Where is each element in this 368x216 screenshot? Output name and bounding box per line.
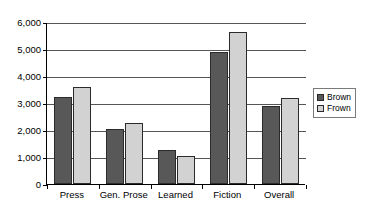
bar-frown-overall xyxy=(281,98,299,184)
bar-brown-press xyxy=(54,97,72,184)
bar-brown-fiction xyxy=(210,52,228,184)
y-axis-tick-label: 2,000 xyxy=(1,126,41,136)
bar-chart: 01,0002,0003,0004,0005,0006,000 PressGen… xyxy=(0,0,368,216)
x-axis-tick-label: Fiction xyxy=(213,190,241,200)
bar-group xyxy=(262,22,299,184)
x-axis-tick xyxy=(151,185,152,189)
legend-item-brown: Brown xyxy=(317,92,351,103)
x-axis-tick-label: Gen. Prose xyxy=(100,190,148,200)
bar-group xyxy=(158,22,195,184)
y-axis-tick-label: 0 xyxy=(1,180,41,190)
plot-area xyxy=(46,23,305,185)
chart-legend: BrownFrown xyxy=(313,88,356,118)
bar-brown-overall xyxy=(262,106,280,184)
bar-frown-learned xyxy=(177,156,195,184)
x-axis-tick xyxy=(202,185,203,189)
y-axis-tick-label: 3,000 xyxy=(1,99,41,109)
x-axis-tick-label: Learned xyxy=(158,190,193,200)
y-axis-tick-label: 5,000 xyxy=(1,45,41,55)
y-axis-tick xyxy=(43,131,47,132)
y-axis-tick-label: 1,000 xyxy=(1,153,41,163)
bar-frown-press xyxy=(73,87,91,184)
x-axis-tick xyxy=(306,185,307,189)
y-axis-tick xyxy=(43,77,47,78)
bar-group xyxy=(106,22,143,184)
y-axis-tick xyxy=(43,23,47,24)
bar-frown-gen-prose xyxy=(125,123,143,184)
outlined-light-square-icon xyxy=(317,105,324,112)
y-axis-tick xyxy=(43,104,47,105)
x-axis-tick xyxy=(47,185,48,189)
y-axis-tick xyxy=(43,158,47,159)
legend-item-frown: Frown xyxy=(317,103,351,114)
bar-brown-learned xyxy=(158,150,176,184)
bar-group xyxy=(210,22,247,184)
legend-item-label: Frown xyxy=(327,104,351,113)
bar-brown-gen-prose xyxy=(106,129,124,184)
bar-frown-fiction xyxy=(229,32,247,184)
legend-item-label: Brown xyxy=(327,93,351,102)
y-axis-tick-label: 6,000 xyxy=(1,18,41,28)
bar-group xyxy=(54,22,91,184)
x-axis-tick-label: Overall xyxy=(264,190,294,200)
y-axis-tick-label: 4,000 xyxy=(1,72,41,82)
filled-dark-square-icon xyxy=(317,94,324,101)
x-axis-tick-label: Press xyxy=(60,190,84,200)
y-axis-tick-labels: 01,0002,0003,0004,0005,0006,000 xyxy=(0,23,41,185)
x-axis-tick xyxy=(254,185,255,189)
y-axis-tick xyxy=(43,50,47,51)
